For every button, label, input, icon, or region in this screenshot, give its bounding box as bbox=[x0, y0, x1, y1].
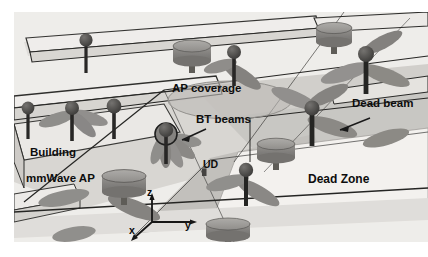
label-mmwave-ap: mmWave AP bbox=[26, 172, 95, 184]
axis-label-y: y bbox=[185, 219, 191, 231]
scan-veil bbox=[14, 12, 428, 242]
label-ap-coverage: AP coverage bbox=[172, 82, 241, 94]
axis-label-z: z bbox=[147, 186, 152, 198]
label-dead-zone: Dead Zone bbox=[308, 172, 369, 186]
label-ud: UD bbox=[203, 158, 218, 170]
label-bt-beams: BT beams bbox=[196, 113, 251, 125]
label-dead-beam: Dead beam bbox=[352, 97, 413, 109]
label-building: Building bbox=[30, 146, 76, 158]
axis-label-x: x bbox=[129, 224, 135, 236]
figure-container: AP coverage BT beams Dead beam Building … bbox=[0, 0, 428, 257]
scene-svg bbox=[14, 12, 428, 242]
scene-canvas bbox=[14, 12, 428, 242]
